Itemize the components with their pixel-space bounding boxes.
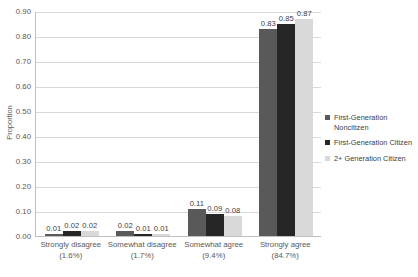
y-axis-tick-label: 0.00 — [16, 233, 31, 241]
y-axis-tick-label: 0.90 — [16, 8, 31, 16]
x-axis-category-label: Somewhat disagree(1.7%) — [107, 240, 179, 261]
legend-label: 2+ Generation Citizen — [334, 154, 406, 164]
category-percent: (1.7%) — [107, 251, 179, 262]
category-name: Somewhat agree — [184, 240, 243, 249]
x-axis-category-labels: Strongly disagree(1.6%)Somewhat disagree… — [35, 240, 321, 274]
category-percent: (84.7%) — [250, 251, 322, 262]
bar-group: 0.010.020.02 — [36, 12, 108, 236]
bar-group-value-labels: 0.110.090.08 — [179, 200, 251, 237]
bar-chart: Proportion 0.900.800.700.600.500.400.300… — [0, 0, 418, 277]
y-axis-tick-label: 0.20 — [16, 183, 31, 191]
bar-group: 0.830.850.87 — [251, 12, 323, 236]
bar-value-label: 0.02 — [116, 222, 134, 230]
bar-value-label: 0.01 — [134, 225, 152, 233]
legend-item[interactable]: 2+ Generation Citizen — [325, 154, 417, 164]
bar-value-label: 0.01 — [45, 225, 63, 233]
category-percent: (9.4%) — [178, 251, 250, 262]
y-axis-tick-labels: 0.900.800.700.600.500.400.300.200.100.00 — [0, 0, 33, 277]
bar-value-label: 0.02 — [81, 222, 99, 230]
bar-group: 0.020.010.01 — [108, 12, 180, 236]
category-percent: (1.6%) — [35, 251, 107, 262]
bar-group-bars — [36, 12, 108, 236]
bar-value-label: 0.02 — [63, 222, 81, 230]
category-name: Somewhat disagree — [108, 240, 177, 249]
legend-label: First-Generation Citizen — [334, 138, 412, 148]
x-axis-category-label: Strongly agree(84.7%) — [250, 240, 322, 261]
y-axis-tick-label: 0.30 — [16, 158, 31, 166]
chart-legend: First-Generation NoncitizenFirst-Generat… — [325, 113, 417, 169]
bar-value-label: 0.11 — [188, 200, 206, 208]
bar-value-label: 0.85 — [277, 15, 295, 23]
legend-label: First-Generation Noncitizen — [334, 113, 417, 132]
bar-value-label: 0.09 — [206, 205, 224, 213]
bar-value-label: 0.01 — [152, 225, 170, 233]
y-axis-tick-label: 0.60 — [16, 83, 31, 91]
x-axis-category-label: Somewhat agree(9.4%) — [178, 240, 250, 261]
bar-value-label: 0.83 — [259, 20, 277, 28]
plot-area: 0.010.020.020.020.010.010.110.090.080.83… — [35, 12, 321, 237]
legend-swatch-icon — [325, 115, 330, 120]
category-name: Strongly agree — [260, 240, 311, 249]
legend-swatch-icon — [325, 156, 330, 161]
x-axis-category-label: Strongly disagree(1.6%) — [35, 240, 107, 261]
bar-group-value-labels: 0.010.020.02 — [36, 222, 108, 236]
bar-group-bars — [108, 12, 180, 236]
y-axis-tick-label: 0.40 — [16, 133, 31, 141]
category-name: Strongly disagree — [40, 240, 101, 249]
bar-group: 0.110.090.08 — [179, 12, 251, 236]
bar-value-label: 0.87 — [295, 10, 313, 18]
bar-group-value-labels: 0.020.010.01 — [108, 222, 180, 236]
y-axis-tick-label: 0.50 — [16, 108, 31, 116]
legend-swatch-icon — [325, 140, 330, 145]
y-axis-tick-label: 0.70 — [16, 58, 31, 66]
bar-value-label: 0.08 — [224, 207, 242, 215]
legend-item[interactable]: First-Generation Citizen — [325, 138, 417, 148]
y-axis-tick-label: 0.10 — [16, 208, 31, 216]
bar-group-value-labels: 0.830.850.87 — [251, 10, 323, 237]
y-axis-tick-label: 0.80 — [16, 33, 31, 41]
legend-item[interactable]: First-Generation Noncitizen — [325, 113, 417, 132]
bar-groups: 0.010.020.020.020.010.010.110.090.080.83… — [36, 12, 321, 236]
